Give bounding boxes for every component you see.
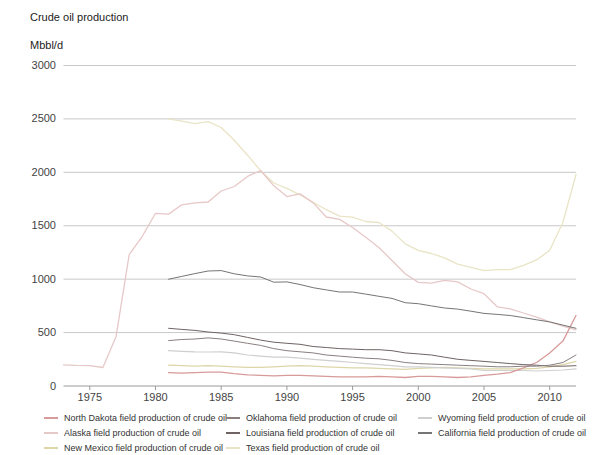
y-tick-label: 500	[38, 326, 56, 338]
x-tick-label: 1985	[209, 391, 233, 403]
legend-label-alaska: Alaska field production of crude oil	[64, 428, 201, 438]
series-line-texas	[169, 119, 576, 271]
legend-label-california: California field production of crude oil	[438, 428, 586, 438]
legend-label-north_dakota: North Dakota field production of crude o…	[64, 413, 227, 423]
legend-swatch-texas	[226, 447, 240, 449]
x-tick-label: 2010	[537, 391, 561, 403]
crude-oil-production-chart: Crude oil production Mbbl/d 050010001500…	[0, 0, 616, 455]
legend-swatch-oklahoma	[226, 417, 240, 419]
x-tick-label: 1995	[340, 391, 364, 403]
legend-swatch-louisiana	[226, 432, 240, 434]
x-tick-label: 1990	[275, 391, 299, 403]
y-tick-label: 3000	[32, 59, 56, 71]
legend-item-wyoming: Wyoming field production of crude oil	[418, 410, 586, 425]
x-tick-label: 2005	[472, 391, 496, 403]
series-line-louisiana	[169, 328, 576, 366]
legend-label-louisiana: Louisiana field production of crude oil	[246, 428, 395, 438]
legend: North Dakota field production of crude o…	[0, 408, 616, 455]
chart-title: Crude oil production	[30, 11, 128, 23]
legend-swatch-alaska	[44, 432, 58, 434]
y-axis-unit-label: Mbbl/d	[30, 39, 63, 51]
legend-label-new_mexico: New Mexico field production of crude oil	[64, 443, 223, 453]
legend-label-wyoming: Wyoming field production of crude oil	[438, 413, 586, 423]
legend-item-north_dakota: North Dakota field production of crude o…	[44, 410, 227, 425]
legend-label-texas: Texas field production of crude oil	[246, 443, 380, 453]
y-tick-label: 2500	[32, 112, 56, 124]
legend-item-alaska: Alaska field production of crude oil	[44, 425, 227, 440]
x-tick-label: 2000	[406, 391, 430, 403]
legend-column-1: North Dakota field production of crude o…	[44, 410, 227, 455]
series-layer	[64, 119, 577, 378]
series-line-new_mexico	[169, 361, 576, 369]
legend-column-2: Oklahoma field production of crude oilLo…	[226, 410, 397, 455]
legend-item-california: California field production of crude oil	[418, 425, 586, 440]
legend-item-texas: Texas field production of crude oil	[226, 440, 397, 455]
x-tick-label: 1980	[143, 391, 167, 403]
legend-swatch-california	[418, 432, 432, 434]
legend-swatch-wyoming	[418, 417, 432, 419]
legend-item-louisiana: Louisiana field production of crude oil	[226, 425, 397, 440]
legend-label-oklahoma: Oklahoma field production of crude oil	[246, 413, 397, 423]
y-tick-label: 1500	[32, 219, 56, 231]
legend-item-oklahoma: Oklahoma field production of crude oil	[226, 410, 397, 425]
y-tick-label: 1000	[32, 273, 56, 285]
legend-swatch-north_dakota	[44, 417, 58, 419]
legend-item-new_mexico: New Mexico field production of crude oil	[44, 440, 227, 455]
grid-layer	[64, 66, 577, 387]
y-tick-label: 2000	[32, 166, 56, 178]
y-tick-label: 0	[50, 380, 56, 392]
legend-swatch-new_mexico	[44, 447, 58, 449]
x-tick-label: 1975	[78, 391, 102, 403]
legend-column-3: Wyoming field production of crude oilCal…	[418, 410, 586, 440]
plot-area: Crude oil production Mbbl/d 050010001500…	[0, 0, 616, 406]
